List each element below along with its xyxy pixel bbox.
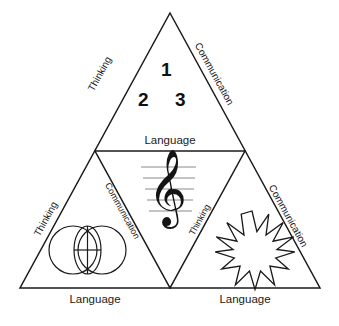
numeral-three: 3 <box>175 90 186 109</box>
top-triangle-language-label: Language <box>144 135 195 147</box>
diagram-root: 𝄞 Thinking Communication Language 1 2 3 … <box>0 0 339 326</box>
numeral-two: 2 <box>138 90 149 109</box>
bottom-left-triangle-language-label: Language <box>69 294 120 306</box>
starburst-icon <box>215 211 295 290</box>
svg-text:𝄞: 𝄞 <box>148 149 187 229</box>
triangle-diagram-svg: 𝄞 <box>0 0 339 326</box>
numeral-one: 1 <box>161 60 172 79</box>
bottom-right-triangle-language-label: Language <box>219 294 270 306</box>
venn-circles-icon <box>49 226 126 274</box>
treble-clef-icon: 𝄞 <box>148 149 187 229</box>
